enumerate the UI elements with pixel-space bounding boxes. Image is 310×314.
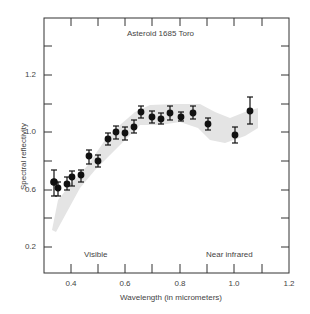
data-point bbox=[113, 129, 119, 135]
data-point bbox=[178, 114, 184, 120]
chart-plot bbox=[0, 0, 310, 314]
x-axis-label: Wavelength (in micrometers) bbox=[120, 293, 222, 302]
data-point bbox=[105, 136, 111, 142]
y-tick-label: 1.2 bbox=[14, 70, 36, 79]
data-point bbox=[122, 130, 128, 136]
data-point bbox=[78, 172, 84, 178]
data-point bbox=[95, 158, 101, 164]
data-point bbox=[205, 121, 211, 127]
data-point bbox=[247, 108, 253, 114]
plot-frame bbox=[44, 18, 289, 273]
chart-title: Asteroid 1685 Toro bbox=[127, 29, 194, 38]
data-point bbox=[64, 181, 70, 187]
x-tick-label: 0.8 bbox=[165, 279, 195, 288]
data-point bbox=[138, 109, 144, 115]
x-tick-label: 0.6 bbox=[110, 279, 140, 288]
y-axis-label: Spectral reflectivity bbox=[19, 112, 28, 202]
annotation-visible: Visible bbox=[84, 250, 107, 259]
data-point bbox=[158, 116, 164, 122]
data-point bbox=[55, 185, 61, 191]
data-point bbox=[86, 153, 92, 159]
annotation-near-infrared: Near infrared bbox=[206, 250, 253, 259]
data-point bbox=[190, 110, 196, 116]
data-point bbox=[69, 174, 75, 180]
data-point bbox=[232, 132, 238, 138]
y-tick-label: 0.2 bbox=[14, 242, 36, 251]
data-point bbox=[167, 110, 173, 116]
data-point bbox=[149, 114, 155, 120]
x-tick-label: 1.2 bbox=[274, 279, 304, 288]
x-tick-label: 1.0 bbox=[219, 279, 249, 288]
data-point bbox=[131, 124, 137, 130]
x-tick-label: 0.4 bbox=[56, 279, 86, 288]
